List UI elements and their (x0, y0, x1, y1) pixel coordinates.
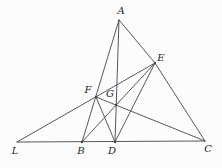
point-label-L: L (11, 145, 19, 156)
edge-BE (82, 63, 155, 142)
point-dot-E (154, 62, 156, 64)
point-dot-B (81, 141, 83, 143)
point-label-G: G (106, 88, 114, 99)
edge-FC (96, 97, 205, 141)
edge-AD (115, 20, 119, 142)
point-label-D: D (107, 145, 116, 156)
edge-LC (17, 141, 205, 142)
edge-AE (119, 20, 155, 63)
point-label-C: C (204, 143, 212, 154)
point-dot-F (95, 96, 97, 98)
point-dot-D (114, 141, 116, 143)
point-label-E: E (156, 52, 165, 63)
point-label-B: B (76, 145, 84, 156)
point-label-A: A (116, 5, 124, 16)
point-label-F: F (84, 84, 93, 95)
diagram-canvas: AEFGLBDC (0, 0, 222, 168)
edge-EC (155, 63, 205, 141)
point-dot-G (115, 104, 117, 106)
geometry-diagram: AEFGLBDC (0, 0, 222, 168)
edge-AB (82, 20, 119, 142)
